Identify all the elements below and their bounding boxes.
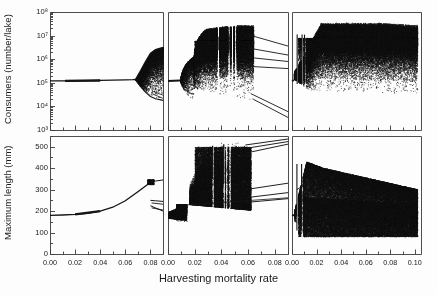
y-tick-top-0: 10³: [24, 125, 48, 134]
x-axis-label: Harvesting mortality rate: [0, 272, 437, 284]
y-tick-top-3: 10⁶: [24, 54, 48, 63]
y-axis-label-bottom: Maximum length (mm): [2, 132, 13, 254]
y-tick-top-2: 10⁵: [24, 78, 48, 87]
y-tick-bottom-3: 300: [24, 185, 48, 194]
y-axis-label-top: Consumers (number/lake): [2, 8, 13, 130]
y-tick-top-1: 10⁴: [24, 101, 48, 110]
y-tick-bottom-5: 500: [24, 142, 48, 151]
y-tick-bottom-0: 0: [24, 249, 48, 258]
y-tick-bottom-1: 100: [24, 228, 48, 237]
x-tick-p3-5: 0.10: [398, 258, 432, 267]
y-tick-bottom-2: 200: [24, 206, 48, 215]
y-tick-top-5: 10⁸: [24, 7, 48, 16]
bifurcation-figure: [0, 0, 437, 295]
y-tick-bottom-4: 400: [24, 163, 48, 172]
y-tick-top-4: 10⁷: [24, 31, 48, 40]
